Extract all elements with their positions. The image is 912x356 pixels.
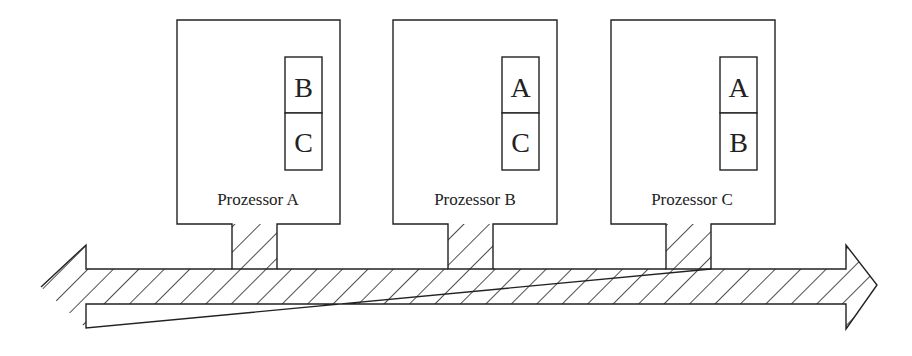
processor-label: Prozessor B <box>434 190 516 209</box>
slot-label: A <box>510 72 531 103</box>
processor-label: Prozessor A <box>217 190 299 209</box>
processor-label: Prozessor C <box>651 190 733 209</box>
slot-label: C <box>294 127 313 158</box>
diagram-canvas: B C Prozessor A A C Prozessor B A B Proz… <box>0 0 912 356</box>
slot-label: B <box>294 72 313 103</box>
slot-label: B <box>729 127 748 158</box>
bus-arrow <box>41 224 877 329</box>
slot-label: A <box>728 72 749 103</box>
slot-label: C <box>511 127 530 158</box>
